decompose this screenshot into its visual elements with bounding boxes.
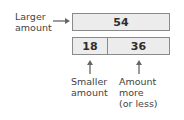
larger-label-line-1: Larger [15, 11, 52, 22]
difference-label-line-1: Amount [119, 76, 158, 87]
top-bar-value: 54 [113, 16, 128, 29]
smaller-label-line-1: Smaller [71, 76, 108, 87]
smaller-amount-label: Smaller amount [71, 76, 108, 98]
arrow-up-icon [135, 60, 143, 74]
top-bar-larger-amount: 54 [72, 13, 170, 31]
larger-amount-label: Larger amount [15, 11, 52, 33]
larger-label-line-2: amount [15, 22, 52, 33]
arrow-up-icon [86, 60, 94, 74]
bottom-bar-value-smaller: 18 [82, 40, 97, 53]
bottom-bar-part-smaller: 18 [72, 37, 108, 55]
smaller-label-line-2: amount [71, 87, 108, 98]
arrow-right-icon [53, 17, 71, 25]
bottom-bar-value-difference: 36 [131, 40, 146, 53]
difference-amount-label: Amount more (or less) [119, 76, 158, 109]
difference-label-line-3: (or less) [119, 98, 158, 109]
bottom-bar-part-difference: 36 [107, 37, 170, 55]
difference-label-line-2: more [119, 87, 158, 98]
